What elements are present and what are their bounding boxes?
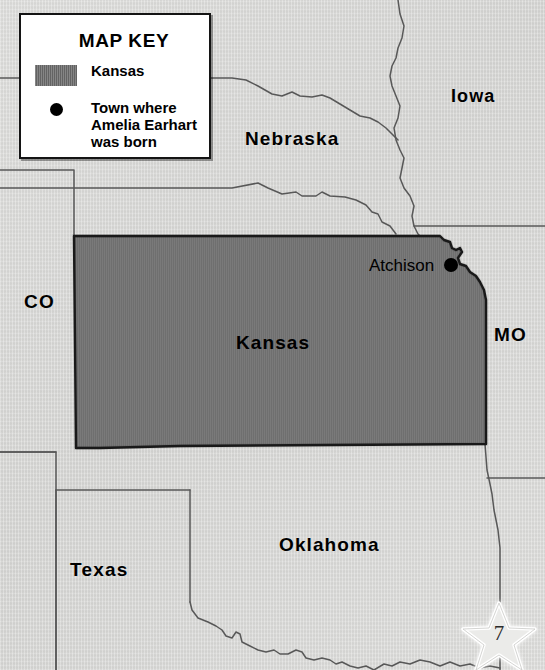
legend-item-kansas-label: Kansas [91,63,144,80]
town-marker-icon [50,103,63,116]
state-label-iowa: Iowa [451,86,495,107]
border-nebraska-iowa-missouri-river [390,0,430,244]
map-key-legend: MAP KEY Kansas Town where Amelia Earhart… [19,13,211,159]
state-label-texas: Texas [70,559,128,581]
kansas-swatch-icon [35,65,77,86]
state-label-oklahoma: Oklahoma [279,534,380,556]
map-key-title: MAP KEY [21,30,209,52]
legend-item-town-label: Town where Amelia Earhart was born [91,100,197,150]
page-number: 7 [466,601,532,664]
legend-dot-wrapper [35,103,77,116]
border-nebraska-south-dakota [0,183,396,234]
border-colorado-nebraska [0,170,74,236]
state-label-missouri: MO [494,324,527,346]
state-label-nebraska: Nebraska [245,128,339,150]
legend-item-town: Town where Amelia Earhart was born [35,100,197,150]
legend-item-kansas: Kansas [35,63,144,86]
border-colorado-new-mexico [0,452,56,670]
map-page: Iowa Nebraska CO MO Kansas Oklahoma Texa… [0,0,545,670]
city-label-atchison: Atchison [369,256,434,276]
atchison-city-marker-icon [444,258,458,272]
state-label-kansas: Kansas [236,332,310,354]
state-label-colorado: CO [24,291,55,313]
border-oklahoma-texas-red-river [190,602,374,670]
